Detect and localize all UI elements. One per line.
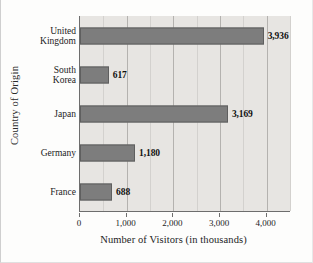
x-axis-tick-mark [79, 213, 80, 217]
bar [80, 105, 228, 122]
x-axis-tick-label: 0 [77, 218, 82, 228]
y-axis-title-text: Country of Origin [10, 66, 21, 145]
bar [80, 66, 109, 83]
x-axis-tick-mark [219, 213, 220, 217]
y-axis-tick-label: Japan [20, 108, 76, 119]
plot-area: 3,9366173,1691,180688 [79, 16, 290, 212]
x-axis-tick-mark [126, 213, 127, 217]
bar-value-label: 688 [116, 187, 130, 197]
x-axis-tick-mark [172, 213, 173, 217]
y-axis-tick-label: Germany [20, 147, 76, 158]
y-axis-tick-label: SouthKorea [20, 64, 76, 85]
bar [80, 144, 135, 161]
x-axis-tick-label: 4,000 [256, 218, 276, 228]
x-axis-tick-label: 2,000 [162, 218, 182, 228]
bar-chart-figure: Country of Origin UnitedKingdomSouthKore… [0, 0, 313, 263]
bar-value-label: 617 [113, 70, 127, 80]
bar-value-label: 3,936 [268, 31, 289, 41]
bar [80, 27, 264, 44]
gridline-minor [290, 16, 291, 211]
y-axis-tick-label: UnitedKingdom [20, 25, 76, 46]
bar-value-label: 3,169 [232, 109, 253, 119]
bar-value-label: 1,180 [139, 148, 160, 158]
x-axis-tick-labels: 01,0002,0003,0004,000 [79, 213, 290, 229]
y-axis-tick-labels: UnitedKingdomSouthKoreaJapanGermanyFranc… [23, 16, 79, 211]
x-axis-tick-label: 3,000 [209, 218, 229, 228]
x-axis-tick-mark [266, 213, 267, 217]
y-axis-tick-label: France [20, 186, 76, 197]
x-axis-title: Number of Visitors (in thousands) [41, 234, 306, 245]
x-axis-tick-label: 1,000 [116, 218, 136, 228]
gridline-major [267, 16, 268, 211]
bar [80, 183, 112, 200]
